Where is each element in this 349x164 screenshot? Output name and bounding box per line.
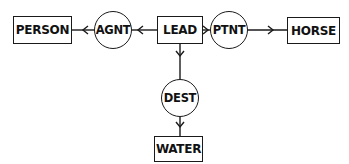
relation-agnt: AGNT	[94, 11, 132, 49]
concept-lead: LEAD	[157, 16, 203, 44]
concept-horse: HORSE	[287, 17, 340, 44]
concept-water: WATER	[154, 136, 203, 162]
relation-ptnt: PTNT	[210, 11, 248, 49]
concept-person: PERSON	[13, 16, 72, 44]
relation-dest: DEST	[161, 79, 199, 117]
